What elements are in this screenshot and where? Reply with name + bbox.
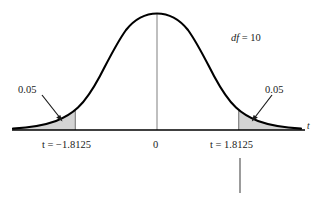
df-equals: = [239, 32, 250, 43]
right-tail-area-label: 0.05 [265, 85, 283, 96]
left-critical-value-label: t = −1.8125 [42, 140, 91, 151]
right-area-leader-line [254, 95, 272, 119]
right-critical-value-label: t = 1.8125 [210, 140, 253, 151]
x-axis-label: t [307, 122, 310, 132]
df-value: 10 [250, 32, 261, 43]
left-tail-area-label: 0.05 [18, 85, 36, 96]
df-symbol: df [231, 32, 239, 43]
distribution-plot [0, 0, 317, 197]
t-distribution-figure: df = 10 0.05 0.05 t = −1.8125 0 t = 1.81… [0, 0, 317, 197]
left-area-leader-line [42, 95, 61, 119]
center-tick-label: 0 [153, 140, 158, 151]
degrees-of-freedom-label: df = 10 [231, 33, 261, 44]
